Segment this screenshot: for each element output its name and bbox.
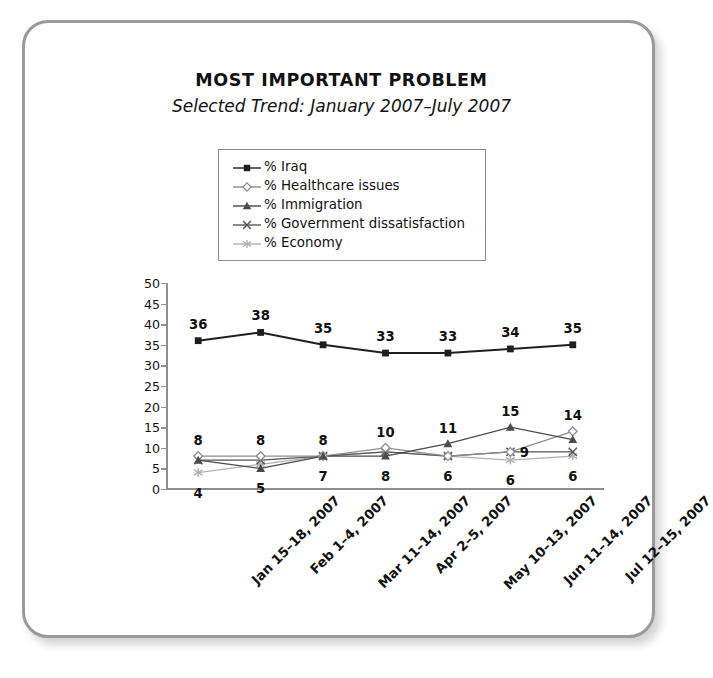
data-point-label: 11 [439,420,457,435]
y-tick-label: 15 [130,420,160,435]
cross-x-icon [230,217,264,231]
legend-item-label: % Healthcare issues [264,178,400,193]
data-point-label: 8 [381,469,390,484]
y-tick-mark [161,427,167,428]
legend-item-label: % Economy [264,235,343,250]
data-point-label: 10 [376,424,394,439]
series-marker [507,346,514,353]
x-axis-tick-labels: Jan 15–18, 2007Feb 1–4, 2007Mar 11–14, 2… [130,489,650,649]
filled-square-icon [230,160,264,174]
y-tick-label: 20 [130,399,160,414]
data-point-label: 8 [194,433,203,448]
chart-card-frame: MOST IMPORTANT PROBLEM Selected Trend: J… [22,20,655,638]
data-point-label: 6 [443,469,452,484]
data-point-label: 15 [501,404,519,419]
filled-triangle-icon [230,198,264,212]
y-tick-label: 10 [130,440,160,455]
data-point-label: 35 [564,320,582,335]
y-tick-mark [161,304,167,305]
y-tick-mark [161,448,167,449]
y-tick-mark [161,407,167,408]
y-tick-mark [161,386,167,387]
legend-item-iraq[interactable]: % Iraq [219,157,485,176]
chart-legend: % Iraq% Healthcare issues% Immigration% … [218,149,486,261]
series-marker [445,350,452,357]
y-tick-label: 30 [130,358,160,373]
data-point-label: 6 [568,469,577,484]
y-tick-mark [161,324,167,325]
data-point-label: 8 [318,433,327,448]
chart-title: MOST IMPORTANT PROBLEM [25,70,658,90]
series-marker [506,423,515,431]
y-tick-mark [161,468,167,469]
series-plot-canvas: 363835333334358881014578111594666 [167,283,604,489]
legend-item-label: % Immigration [264,197,363,212]
data-point-label: 6 [506,473,515,488]
y-tick-label: 25 [130,379,160,394]
y-tick-label: 40 [130,317,160,332]
series-marker [257,329,264,336]
data-point-label: 34 [501,324,519,339]
series-marker [256,452,265,461]
chart-subtitle: Selected Trend: January 2007–July 2007 [25,96,658,116]
data-point-label: 7 [318,469,327,484]
series-marker [568,427,577,436]
legend-item-healthcare-issues[interactable]: % Healthcare issues [219,176,485,195]
y-tick-label: 5 [130,461,160,476]
x-tick-label: Apr 2–5, 2007 [432,493,515,576]
y-tick-mark [161,365,167,366]
y-tick-mark [161,345,167,346]
legend-item-government-dissatisfaction[interactable]: % Government dissatisfaction [219,214,485,233]
legend-item-label: % Iraq [264,159,307,174]
x-tick-label: May 10–13, 2007 [501,493,600,592]
series-marker [320,341,327,348]
plot-area: 50454035302520151050 3638353333343588810… [130,283,610,515]
data-point-label: 8 [256,433,265,448]
y-tick-mark [161,283,167,284]
series-marker [195,337,202,344]
series-marker [382,350,389,357]
open-diamond-icon [230,179,264,193]
x-tick-label: Jan 15–18, 2007 [249,493,343,587]
y-axis-tick-labels: 50454035302520151050 [130,283,160,495]
data-point-label: 33 [376,329,394,344]
y-tick-label: 35 [130,337,160,352]
data-point-label: 9 [520,444,529,459]
asterisk-icon [230,236,264,250]
y-tick-label: 50 [130,276,160,291]
data-point-label: 35 [314,320,332,335]
y-tick-label: 45 [130,296,160,311]
legend-item-economy[interactable]: % Economy [219,233,485,252]
series-marker [569,341,576,348]
data-point-label: 36 [189,316,207,331]
data-point-label: 14 [564,408,582,423]
legend-item-label: % Government dissatisfaction [264,216,465,231]
data-point-label: 33 [439,329,457,344]
legend-item-immigration[interactable]: % Immigration [219,195,485,214]
data-point-label: 38 [251,308,269,323]
